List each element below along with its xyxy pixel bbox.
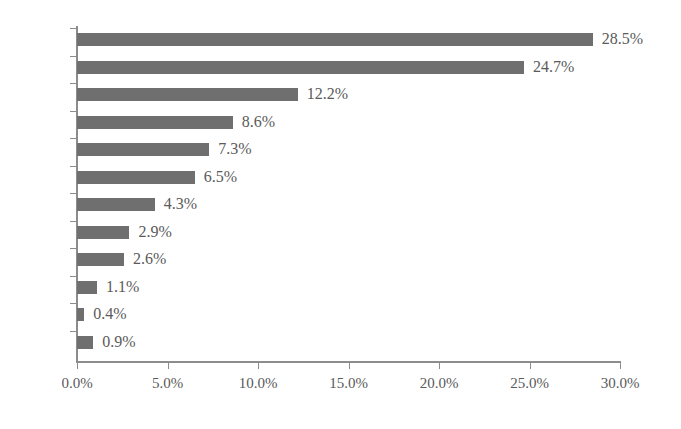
value-axis-tick [258, 362, 259, 369]
bar-value-label: 0.4% [93, 306, 126, 322]
value-axis-tick-label: 0.0% [61, 376, 92, 391]
bar [77, 281, 97, 294]
value-axis-tick [168, 362, 169, 369]
category-tick [70, 193, 77, 194]
value-axis-tick [439, 362, 440, 369]
bar [77, 253, 124, 266]
value-axis-tick [349, 362, 350, 369]
bar [77, 33, 593, 46]
bar-value-label: 12.2% [307, 86, 348, 102]
bar [77, 116, 233, 129]
value-axis-tick-label: 30.0% [601, 376, 640, 391]
chart-row: 快消28.5% [77, 28, 620, 56]
value-axis-tick [530, 362, 531, 369]
bar-value-label: 6.5% [204, 169, 237, 185]
chart-row: IT6.5% [77, 166, 620, 194]
category-tick [70, 83, 77, 84]
chart-row: 汽車24.7% [77, 56, 620, 84]
category-tick [70, 166, 77, 167]
chart-row: 日化12.2% [77, 83, 620, 111]
category-tick [70, 28, 77, 29]
chart-row: 金融2.6% [77, 248, 620, 276]
value-axis-tick-label: 15.0% [329, 376, 368, 391]
bar-value-label: 28.5% [602, 31, 643, 47]
category-tick [70, 56, 77, 57]
value-axis-tick-label: 20.0% [420, 376, 459, 391]
bar [77, 198, 155, 211]
bar-chart: 快消28.5%汽車24.7%日化12.2%娛樂8.6%電商7.3%IT6.5%應… [0, 0, 681, 429]
category-tick [70, 248, 77, 249]
category-tick [70, 331, 77, 332]
bar [77, 143, 209, 156]
value-axis-tick-label: 10.0% [239, 376, 278, 391]
bar-value-label: 1.1% [106, 279, 139, 295]
plot-area: 快消28.5%汽車24.7%日化12.2%娛樂8.6%電商7.3%IT6.5%應… [77, 26, 620, 360]
bar-value-label: 2.9% [138, 224, 171, 240]
bar-value-label: 8.6% [242, 114, 275, 130]
bar [77, 308, 84, 321]
bar [77, 336, 93, 349]
chart-row: 應用4.3% [77, 193, 620, 221]
value-axis-tick [620, 362, 621, 369]
category-tick [70, 138, 77, 139]
category-tick [70, 221, 77, 222]
chart-row: 教育1.1% [77, 276, 620, 304]
bar [77, 171, 195, 184]
chart-row: 娛樂8.6% [77, 111, 620, 139]
chart-row: 其他0.9% [77, 331, 620, 359]
bar-value-label: 4.3% [164, 196, 197, 212]
bar-value-label: 2.6% [133, 251, 166, 267]
bar [77, 61, 524, 74]
chart-row: 地產2.9% [77, 221, 620, 249]
category-tick [70, 276, 77, 277]
chart-row: 電商7.3% [77, 138, 620, 166]
bar-value-label: 0.9% [102, 334, 135, 350]
value-axis-tick [77, 362, 78, 369]
category-tick [70, 111, 77, 112]
bar-value-label: 7.3% [218, 141, 251, 157]
chart-row: 服飾0.4% [77, 303, 620, 331]
value-axis-tick-label: 25.0% [510, 376, 549, 391]
bar-value-label: 24.7% [533, 59, 574, 75]
value-axis-tick-label: 5.0% [152, 376, 183, 391]
bar [77, 226, 129, 239]
bar [77, 88, 298, 101]
category-tick [70, 303, 77, 304]
